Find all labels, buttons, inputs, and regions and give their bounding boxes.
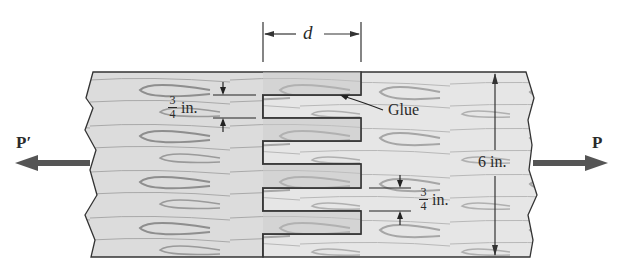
denominator: 4 [421,201,427,212]
load-label-left: P′ [16,133,31,153]
load-arrow-left [15,155,90,171]
right-finger-width-label: 3 4 in. [419,187,448,212]
unit: in. [432,191,448,209]
unit: in. [181,99,197,117]
six-inch-label: 6 in. [478,153,506,171]
left-finger-width-label: 3 4 in. [168,95,197,120]
load-arrow-right [533,155,608,171]
numerator: 3 [421,187,427,198]
numerator: 3 [170,95,176,106]
d-label: d [303,22,313,44]
glue-label: Glue [388,101,419,119]
load-label-right: P [592,133,602,153]
denominator: 4 [170,109,176,120]
